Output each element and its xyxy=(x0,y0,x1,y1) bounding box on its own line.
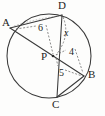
chord-cb-line xyxy=(57,76,84,97)
geometry-figure: A D B C P 6 x 4 5 xyxy=(0,0,105,116)
measure-label-dp: x xyxy=(64,28,68,38)
measure-label-pb: 4 xyxy=(69,47,74,57)
point-label-p: P xyxy=(41,51,47,62)
point-label-c: C xyxy=(52,99,59,110)
point-p-dot xyxy=(52,55,55,58)
point-label-a: A xyxy=(2,17,10,28)
chord-dc-line xyxy=(57,15,62,97)
measure-leader-pb-2 xyxy=(75,49,83,73)
measure-label-pc: 5 xyxy=(59,68,64,78)
point-label-d: D xyxy=(58,0,66,11)
measure-label-ap: 6 xyxy=(38,23,43,33)
point-label-b: B xyxy=(88,69,95,80)
chord-ad-line xyxy=(10,15,62,28)
measure-leader-ap-2 xyxy=(46,25,53,54)
circle-outline xyxy=(7,14,91,98)
